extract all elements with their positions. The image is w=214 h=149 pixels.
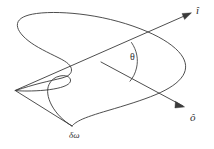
incident-ray-arrowhead	[182, 13, 192, 20]
surface-patch-fold	[16, 76, 73, 126]
angle-label: θ	[130, 52, 135, 62]
figure-canvas	[0, 0, 214, 149]
incident-ray	[15, 14, 190, 91]
solid-angle-label: δω	[69, 131, 80, 140]
incident-vector-label: î	[196, 5, 199, 16]
outgoing-ray-arrowhead	[175, 101, 185, 108]
surface-patch-outline	[16, 12, 186, 126]
figure-root: î ô θ δω	[0, 0, 214, 149]
outgoing-vector-label: ô	[190, 112, 196, 123]
